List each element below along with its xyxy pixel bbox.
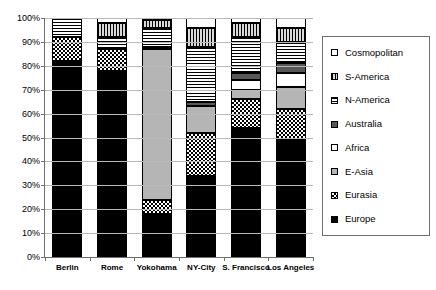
chart-legend: CosmopolitanS-AmericaN-AmericaAustraliaA… [322,36,430,236]
legend-label: N-America [345,95,390,105]
legend-swatch-icon [331,144,338,151]
y-axis-label: 70% [22,85,40,94]
bar-segment-n-america[interactable] [276,42,306,64]
x-axis-tick [268,257,269,261]
legend-swatch-icon [331,168,338,175]
legend-label: Africa [345,143,369,153]
bar-segment-n-america[interactable] [52,18,82,37]
legend-list: CosmopolitanS-AmericaN-AmericaAustraliaA… [323,37,429,235]
legend-label: E-Asia [345,167,373,177]
y-axis-label: 40% [22,157,40,166]
bar-segment-cosmopolitan[interactable] [276,18,306,28]
bar-segment-australia[interactable] [142,47,172,49]
legend-item-cosmopolitan[interactable]: Cosmopolitan [331,43,429,63]
y-axis-label: 30% [22,181,40,190]
bar-segment-s-america[interactable] [276,28,306,42]
legend-item-africa[interactable]: Africa [331,138,429,158]
y-axis-tick [41,66,45,67]
x-axis-tick [134,257,135,261]
x-axis-tick [179,257,180,261]
legend-label: Europe [345,214,376,224]
bar-segment-cosmopolitan[interactable] [186,18,216,28]
y-axis-tick [41,185,45,186]
bar-segment-eurasia[interactable] [52,37,82,61]
x-axis-tick [313,257,314,261]
plot-area: 0%10%20%30%40%50%60%70%80%90%100%BerlinR… [44,18,313,258]
y-axis-label: 50% [22,133,40,142]
bar-segment-e-asia[interactable] [142,49,172,200]
bar-segment-e-asia[interactable] [186,106,216,132]
gridline [45,138,313,139]
x-axis-tick [90,257,91,261]
y-axis-label: 80% [22,61,40,70]
bar-segment-europe[interactable] [97,71,127,257]
bar-segment-eurasia[interactable] [142,200,172,214]
x-axis-label: Los Angeles [267,263,314,272]
bar-segment-n-america[interactable] [186,47,216,102]
y-axis-label: 60% [22,109,40,118]
x-axis-tick [224,257,225,261]
y-axis-tick [41,114,45,115]
bar-segment-europe[interactable] [231,128,261,257]
bar-segment-n-america[interactable] [142,28,172,47]
x-axis-label: NY-City [187,263,215,272]
y-axis-tick [41,18,45,19]
legend-item-e-asia[interactable]: E-Asia [331,162,429,182]
gridline [45,42,313,43]
gridline [45,161,313,162]
bar-segment-africa[interactable] [231,80,261,90]
y-axis-tick [41,233,45,234]
bar-segment-s-america[interactable] [231,23,261,37]
y-axis-tick [41,161,45,162]
legend-swatch-icon [331,121,338,128]
gridline [45,18,313,19]
bar-segment-e-asia[interactable] [231,90,261,100]
y-axis-label: 100% [17,14,40,23]
bar-segment-s-america[interactable] [186,28,216,47]
y-axis-tick [41,138,45,139]
legend-swatch-icon [331,97,338,104]
legend-swatch-icon [331,73,338,80]
gridline [45,90,313,91]
x-axis-label: S. Francisco [222,263,270,272]
legend-label: Eurasia [345,190,377,200]
bar-segment-s-america[interactable] [97,23,127,37]
legend-swatch-icon [331,49,338,56]
y-axis-label: 90% [22,37,40,46]
y-axis-label: 10% [22,229,40,238]
bar-segment-africa[interactable] [276,73,306,87]
legend-item-s-america[interactable]: S-America [331,67,429,87]
x-axis-tick [45,257,46,261]
legend-item-australia[interactable]: Australia [331,114,429,134]
x-axis-label: Berlin [56,263,79,272]
y-axis-label: 0% [27,253,40,262]
stacked-bar-chart: 0%10%20%30%40%50%60%70%80%90%100%BerlinR… [0,0,436,290]
gridline [45,209,313,210]
legend-swatch-icon [331,192,338,199]
legend-item-eurasia[interactable]: Eurasia [331,185,429,205]
bar-segment-n-america[interactable] [97,37,127,49]
y-axis-tick [41,209,45,210]
bar-segment-eurasia[interactable] [97,49,127,71]
bar-segment-s-america[interactable] [142,20,172,27]
bar-segment-australia[interactable] [231,73,261,80]
gridline [45,66,313,67]
x-axis-label: Rome [101,263,123,272]
bar-segment-europe[interactable] [276,140,306,257]
legend-item-europe[interactable]: Europe [331,209,429,229]
legend-label: Australia [345,119,382,129]
gridline [45,114,313,115]
y-axis-label: 20% [22,205,40,214]
bar-segment-europe[interactable] [142,214,172,257]
y-axis-tick [41,42,45,43]
legend-swatch-icon [331,216,338,223]
legend-item-n-america[interactable]: N-America [331,90,429,110]
gridline [45,185,313,186]
legend-label: Cosmopolitan [345,48,403,58]
y-axis-tick [41,90,45,91]
bar-segment-eurasia[interactable] [186,133,216,176]
bar-segment-australia[interactable] [186,102,216,107]
gridline [45,233,313,234]
bar-segment-europe[interactable] [186,176,216,257]
x-axis-label: Yokohama [137,263,177,272]
